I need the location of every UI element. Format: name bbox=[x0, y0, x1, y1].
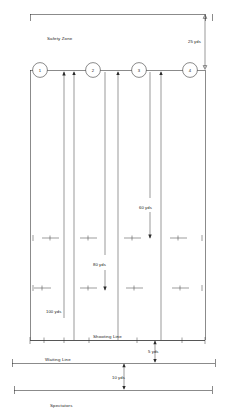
dimension-safety-25yds bbox=[203, 15, 207, 70]
target-marker-3[interactable]: 3 bbox=[132, 63, 147, 78]
safety-zone-label: Safety Zone bbox=[47, 36, 73, 41]
target-marker-1[interactable]: 1 bbox=[33, 63, 48, 78]
target-marker-4[interactable]: 4 bbox=[183, 63, 198, 78]
target-marker-2[interactable]: 2 bbox=[86, 63, 101, 78]
dimension-label-5yds: 5 yds bbox=[148, 349, 159, 354]
range-tick-row-lower bbox=[33, 285, 202, 291]
spectators-label: Spectators bbox=[50, 403, 73, 408]
dimension-label-25yds: 25 yds bbox=[188, 39, 201, 44]
dimension-label-80yds: 80 yds bbox=[93, 262, 106, 267]
waiting-line-label: Waiting Line bbox=[45, 357, 71, 362]
range-layout-diagram: Safety Zone 25 yds bbox=[0, 0, 227, 416]
dimension-range-80yds bbox=[103, 72, 106, 291]
dimension-range-60yds bbox=[148, 72, 151, 239]
dimension-label-100yds: 100 yds bbox=[46, 309, 61, 314]
range-tick-row-upper bbox=[33, 235, 202, 241]
spectators-line bbox=[14, 386, 212, 394]
safety-zone-bracket bbox=[30, 14, 212, 21]
field-diagram-canvas: Safety Zone 25 yds bbox=[0, 0, 227, 416]
dimension-range-100yds bbox=[62, 71, 65, 318]
dimension-label-60yds: 60 yds bbox=[139, 205, 152, 210]
shooting-line-label: Shooting Line bbox=[93, 334, 122, 339]
field-boundary bbox=[30, 70, 205, 340]
waiting-line bbox=[12, 359, 215, 367]
dimension-label-10yds: 10 yds bbox=[112, 375, 125, 380]
